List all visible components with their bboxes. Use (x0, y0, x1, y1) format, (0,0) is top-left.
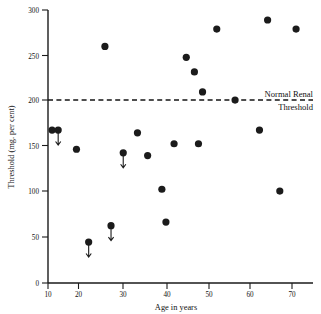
data-points-layer (48, 16, 299, 257)
data-point-marker (170, 140, 177, 147)
data-point-marker (183, 54, 190, 61)
data-point (264, 16, 271, 23)
x-tick-label: 50 (205, 291, 213, 299)
x-tick-label: 70 (288, 291, 296, 299)
data-point (107, 222, 114, 241)
data-point-marker (144, 152, 151, 159)
data-point (183, 54, 190, 61)
y-tick-label: 250 (28, 53, 39, 61)
down-arrow-icon (56, 132, 61, 145)
y-tick-label: 300 (28, 7, 39, 15)
y-tick-label: 50 (32, 234, 40, 242)
data-point-marker (276, 187, 283, 194)
x-tick-label: 30 (119, 291, 127, 299)
data-point (191, 68, 198, 75)
x-axis-tick-labels: 10 20 30 40 50 60 70 (44, 291, 296, 299)
y-axis-ticks (42, 10, 48, 283)
y-tick-label: 0 (35, 280, 39, 288)
x-tick-label: 20 (75, 291, 83, 299)
data-point-marker (199, 88, 206, 95)
y-tick-label: 200 (28, 97, 39, 105)
data-point-marker (213, 26, 220, 33)
data-point (170, 140, 177, 147)
data-point (231, 96, 238, 103)
data-point-marker (292, 26, 299, 33)
data-point-marker (162, 218, 169, 225)
data-point (85, 238, 92, 257)
y-axis-tick-labels: 300 250 200 150 100 50 0 (28, 7, 39, 288)
data-point-marker (134, 129, 141, 136)
x-axis-ticks (48, 283, 292, 289)
data-point-marker (101, 43, 108, 50)
data-point (162, 218, 169, 225)
data-point (158, 186, 165, 193)
data-point (120, 149, 127, 168)
threshold-label-line1: Normal Renal (265, 89, 314, 99)
data-point-marker (191, 68, 198, 75)
data-point-marker (231, 96, 238, 103)
chart-figure: 300 250 200 150 100 50 0 10 20 30 40 50 … (0, 0, 321, 314)
data-point-marker (195, 140, 202, 147)
y-axis-title: Threshold (mg. per cent) (7, 105, 16, 188)
data-point (276, 187, 283, 194)
data-point (292, 26, 299, 33)
threshold-label-line2: Threshold (278, 102, 314, 112)
data-point-marker (264, 16, 271, 23)
y-tick-label: 100 (28, 188, 39, 196)
data-point-marker (73, 146, 80, 153)
data-point (256, 127, 263, 134)
x-tick-label: 60 (246, 291, 254, 299)
data-point-marker (158, 186, 165, 193)
data-point (55, 127, 62, 146)
data-point (199, 88, 206, 95)
x-tick-label: 40 (163, 291, 171, 299)
data-point (101, 43, 108, 50)
data-point (213, 26, 220, 33)
data-point-marker (256, 127, 263, 134)
x-tick-label: 10 (44, 291, 52, 299)
y-tick-label: 150 (28, 143, 39, 151)
scatter-plot: 300 250 200 150 100 50 0 10 20 30 40 50 … (0, 0, 321, 314)
down-arrow-icon (86, 244, 91, 257)
data-point (73, 146, 80, 153)
x-axis-title: Age in years (155, 303, 197, 312)
data-point (134, 129, 141, 136)
data-point (195, 140, 202, 147)
data-point (144, 152, 151, 159)
down-arrow-icon (121, 155, 126, 168)
down-arrow-icon (108, 228, 113, 241)
